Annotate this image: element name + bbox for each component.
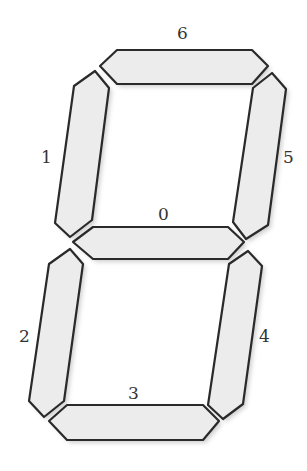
segment-3-bottom: [49, 405, 219, 440]
seven-segment-diagram: 0123456: [0, 0, 307, 471]
segment-4-label: 4: [259, 326, 270, 346]
segment-1-upper-left: [55, 71, 109, 237]
segment-6-label: 6: [177, 23, 188, 43]
segment-5-label: 5: [283, 147, 294, 167]
segment-5-upper-right: [233, 73, 286, 239]
segment-1-label: 1: [41, 147, 52, 167]
segment-6-top: [100, 50, 268, 84]
segment-2-label: 2: [19, 326, 30, 346]
segment-0-label: 0: [158, 204, 169, 224]
segment-0-middle: [73, 227, 244, 259]
segment-3-label: 3: [128, 383, 139, 403]
